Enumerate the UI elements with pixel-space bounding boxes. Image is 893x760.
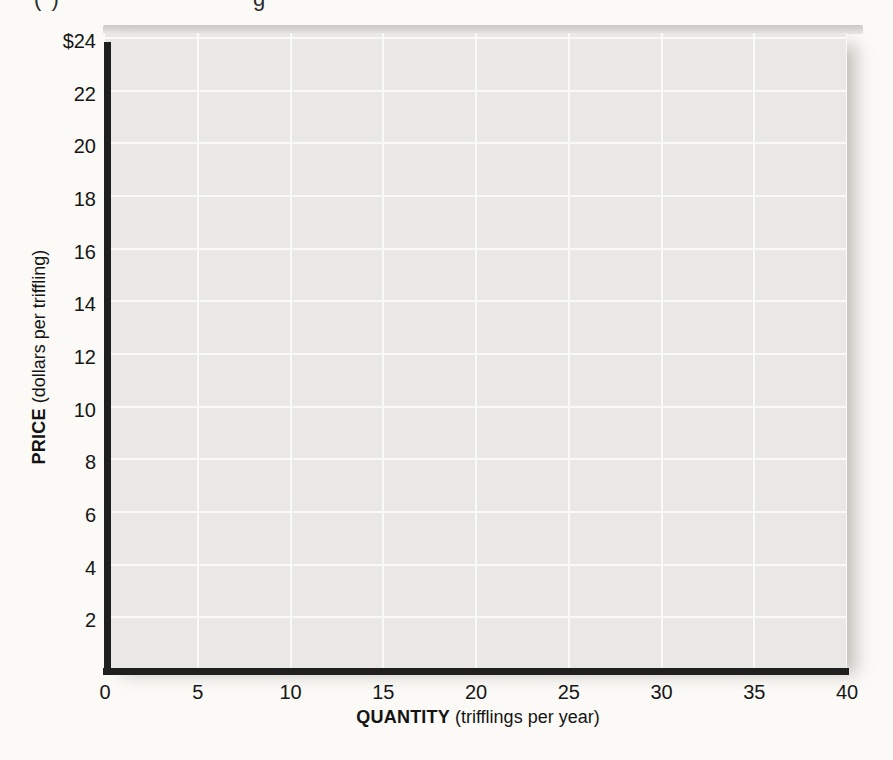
textbook-page: ( ) g $24222018161412108642 051015202530…: [0, 0, 893, 760]
x-tick-label: 15: [358, 681, 408, 703]
vertical-gridline: [661, 33, 663, 670]
x-axis-title-sub: (trifflings per year): [450, 707, 600, 727]
vertical-gridline: [382, 33, 384, 670]
x-tick-label: 10: [266, 681, 316, 703]
x-axis-line: [103, 668, 849, 675]
vertical-gridline: [290, 33, 292, 670]
y-tick-label: 20: [0, 135, 96, 157]
x-tick-label: 5: [173, 681, 223, 703]
x-tick-label: 20: [451, 681, 501, 703]
vertical-gridline: [197, 33, 199, 670]
y-tick-label: 22: [0, 83, 96, 105]
y-tick-label: 4: [0, 557, 96, 579]
vertical-gridline: [846, 33, 847, 670]
vertical-gridline: [568, 33, 570, 670]
price-quantity-chart: $24222018161412108642 0510152025303540 P…: [0, 0, 893, 760]
x-tick-label: 30: [637, 681, 687, 703]
x-tick-label: 40: [822, 681, 872, 703]
y-axis-title: PRICE (dollars per triffling): [29, 250, 50, 465]
vertical-gridline: [753, 33, 755, 670]
plot-area: [105, 33, 847, 670]
x-tick-label: 25: [544, 681, 594, 703]
y-axis-line: [104, 42, 111, 675]
x-tick-label: 0: [80, 681, 130, 703]
y-axis-title-main: PRICE: [29, 408, 49, 464]
x-tick-label: 35: [729, 681, 779, 703]
y-tick-label: 2: [0, 609, 96, 631]
y-tick-label: $24: [0, 30, 96, 52]
x-axis-title: QUANTITY (trifflings per year): [356, 707, 599, 728]
x-axis-title-main: QUANTITY: [356, 707, 450, 727]
y-tick-label: 18: [0, 188, 96, 210]
vertical-gridline: [475, 33, 477, 670]
y-tick-label: 6: [0, 504, 96, 526]
y-axis-title-sub: (dollars per triffling): [29, 250, 49, 409]
